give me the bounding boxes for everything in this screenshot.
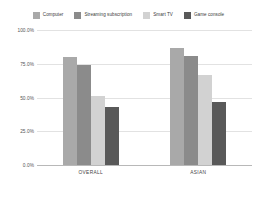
legend-swatch-icon — [143, 12, 150, 19]
x-axis-tick-label: ASIAN — [145, 170, 253, 175]
bar[interactable] — [91, 96, 105, 165]
bar[interactable] — [105, 107, 119, 165]
chart-legend: ComputerStreaming subscriptionSmart TVGa… — [0, 8, 257, 22]
bar-chart: ComputerStreaming subscriptionSmart TVGa… — [0, 0, 257, 197]
bars-layer — [37, 30, 252, 165]
axis-baseline — [37, 165, 252, 166]
bar[interactable] — [184, 56, 198, 165]
bar[interactable] — [198, 75, 212, 165]
y-axis-tick-label: 25.0% — [20, 129, 34, 134]
legend-entry[interactable]: Smart TV — [143, 12, 173, 19]
legend-swatch-icon — [184, 12, 191, 19]
y-axis-tick-label: 50.0% — [20, 95, 34, 100]
y-axis-tick-label: 0.0% — [23, 163, 34, 168]
bar-group — [145, 30, 253, 165]
legend-label: Game console — [194, 13, 224, 18]
plot-area: 100.0%75.0%50.0%25.0%0.0% OVERALLASIAN — [0, 30, 257, 197]
bar-group — [37, 30, 145, 165]
x-axis: OVERALLASIAN — [37, 170, 252, 175]
legend-swatch-icon — [33, 12, 40, 19]
y-axis: 100.0%75.0%50.0%25.0%0.0% — [0, 30, 36, 165]
legend-entry[interactable]: Streaming subscription — [74, 12, 132, 19]
bar[interactable] — [63, 57, 77, 165]
legend-swatch-icon — [74, 12, 81, 19]
legend-label: Computer — [43, 13, 64, 18]
legend-label: Smart TV — [153, 13, 173, 18]
bar[interactable] — [212, 102, 226, 165]
legend-label: Streaming subscription — [84, 13, 132, 18]
x-axis-tick-label: OVERALL — [37, 170, 145, 175]
bar[interactable] — [170, 48, 184, 165]
y-axis-tick-label: 75.0% — [20, 61, 34, 66]
legend-entry[interactable]: Computer — [33, 12, 64, 19]
legend-entry[interactable]: Game console — [184, 12, 224, 19]
bar[interactable] — [77, 65, 91, 165]
y-axis-tick-label: 100.0% — [17, 28, 34, 33]
